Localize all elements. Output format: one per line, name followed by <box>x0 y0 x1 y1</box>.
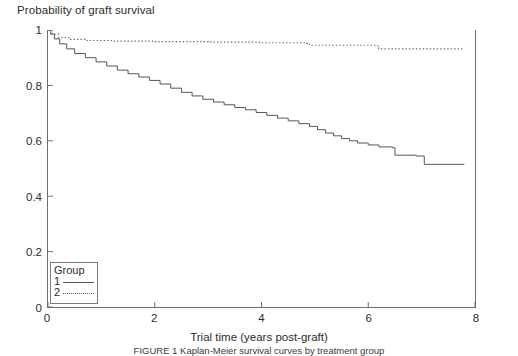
x-tick-label: 8 <box>473 312 479 324</box>
x-tick-label: 2 <box>151 312 157 324</box>
legend-item: 1 <box>54 276 94 287</box>
y-tick-label: 0.2 <box>26 246 42 258</box>
x-axis-title: Trial time (years post-graft) <box>0 331 518 343</box>
x-tick-label: 6 <box>366 312 372 324</box>
legend-line-swatch <box>63 282 94 284</box>
survival-curve-group-1 <box>48 30 464 164</box>
y-tick-label: 0.4 <box>26 191 42 203</box>
tick-marks <box>48 30 475 307</box>
legend-item-label: 2 <box>54 287 60 298</box>
plot-area <box>47 30 476 308</box>
survival-curve-group-2 <box>48 30 464 49</box>
x-tick-label: 4 <box>258 312 264 324</box>
legend: Group 12 <box>50 262 98 304</box>
figure-caption: FIGURE 1 Kaplan-Meier survival curves by… <box>0 345 518 356</box>
y-tick-label: 0.6 <box>26 135 42 147</box>
legend-entries: 12 <box>54 276 94 298</box>
legend-item: 2 <box>54 287 94 298</box>
y-tick-label: 1 <box>36 24 42 36</box>
x-axis-tick-labels: 02468 <box>0 312 518 330</box>
legend-title: Group <box>54 264 94 276</box>
survival-curves-svg <box>48 30 475 307</box>
series-layer <box>48 30 464 164</box>
x-tick-label: 0 <box>44 312 50 324</box>
y-tick-label: 0.8 <box>26 80 42 92</box>
legend-line-swatch <box>63 293 94 295</box>
y-axis-tick-labels: 00.20.40.60.81 <box>0 0 42 354</box>
